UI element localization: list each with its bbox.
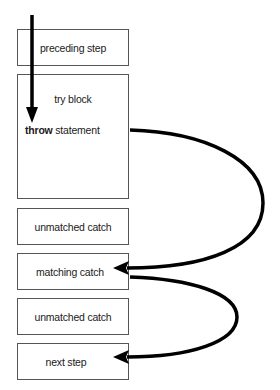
throw-to-catch-arrow-icon [113, 130, 263, 275]
catch-to-next-arrow-icon [113, 277, 237, 364]
entry-arrow-icon [26, 15, 38, 123]
flow-arrows [0, 0, 280, 390]
